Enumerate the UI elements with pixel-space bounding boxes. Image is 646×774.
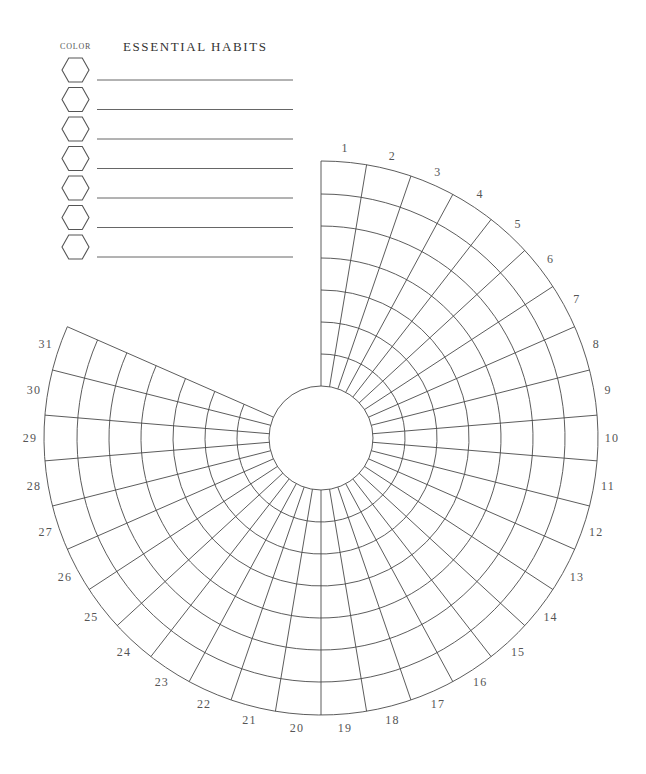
day-label: 9 — [604, 383, 611, 397]
day-label: 11 — [601, 479, 615, 493]
day-19-habit-6-cell[interactable] — [321, 647, 361, 682]
day-29-habit-3-cell[interactable] — [173, 426, 205, 450]
day-label: 18 — [385, 713, 399, 727]
day-label: 29 — [23, 431, 37, 445]
day-label: 30 — [27, 383, 41, 397]
day-label: 31 — [39, 337, 53, 351]
day-label: 12 — [589, 525, 603, 539]
day-29-habit-7-cell[interactable] — [44, 415, 78, 461]
day-label: 7 — [573, 292, 580, 306]
habit-tracker-wheel: 1234567891011121314151617181920212223242… — [0, 0, 646, 774]
day-29-habit-2-cell[interactable] — [205, 428, 237, 447]
day-label: 8 — [593, 337, 600, 351]
day-label: 3 — [434, 165, 441, 179]
day-label: 6 — [547, 252, 554, 266]
day-10-habit-3-cell[interactable] — [437, 426, 469, 450]
day-29-habit-5-cell[interactable] — [109, 420, 142, 455]
day-label: 16 — [473, 675, 487, 689]
day-label: 21 — [242, 713, 256, 727]
day-10-habit-4-cell[interactable] — [468, 423, 501, 453]
day-label: 20 — [290, 721, 304, 735]
day-label: 19 — [338, 721, 352, 735]
day-label: 1 — [341, 141, 348, 155]
center-circle — [269, 386, 373, 490]
day-19-habit-7-cell[interactable] — [321, 679, 367, 715]
day-label: 17 — [431, 697, 445, 711]
day-29-habit-4-cell[interactable] — [141, 423, 174, 453]
day-label: 26 — [58, 570, 72, 584]
day-19-habit-5-cell[interactable] — [321, 616, 356, 650]
day-label: 14 — [543, 610, 557, 624]
day-label: 2 — [389, 149, 396, 163]
day-1-habit-5-cell[interactable] — [321, 226, 356, 260]
day-label: 25 — [84, 610, 98, 624]
day-29-habit-6-cell[interactable] — [77, 418, 110, 458]
day-10-habit-2-cell[interactable] — [405, 428, 437, 447]
day-label: 24 — [117, 645, 131, 659]
day-20-habit-7-cell[interactable] — [275, 679, 321, 715]
day-label: 28 — [27, 479, 41, 493]
day-label: 4 — [477, 187, 484, 201]
day-label: 27 — [39, 525, 53, 539]
day-label: 13 — [570, 570, 584, 584]
day-label: 22 — [197, 697, 211, 711]
day-label: 23 — [155, 675, 169, 689]
day-20-habit-5-cell[interactable] — [286, 616, 321, 650]
day-10-habit-6-cell[interactable] — [532, 418, 565, 458]
day-1-habit-7-cell[interactable] — [321, 161, 367, 197]
day-10-habit-5-cell[interactable] — [500, 420, 533, 455]
day-label: 10 — [605, 431, 619, 445]
day-label: 5 — [514, 217, 521, 231]
day-1-habit-6-cell[interactable] — [321, 194, 361, 229]
day-label: 15 — [511, 645, 525, 659]
day-10-habit-7-cell[interactable] — [564, 415, 598, 461]
day-20-habit-6-cell[interactable] — [281, 647, 321, 682]
